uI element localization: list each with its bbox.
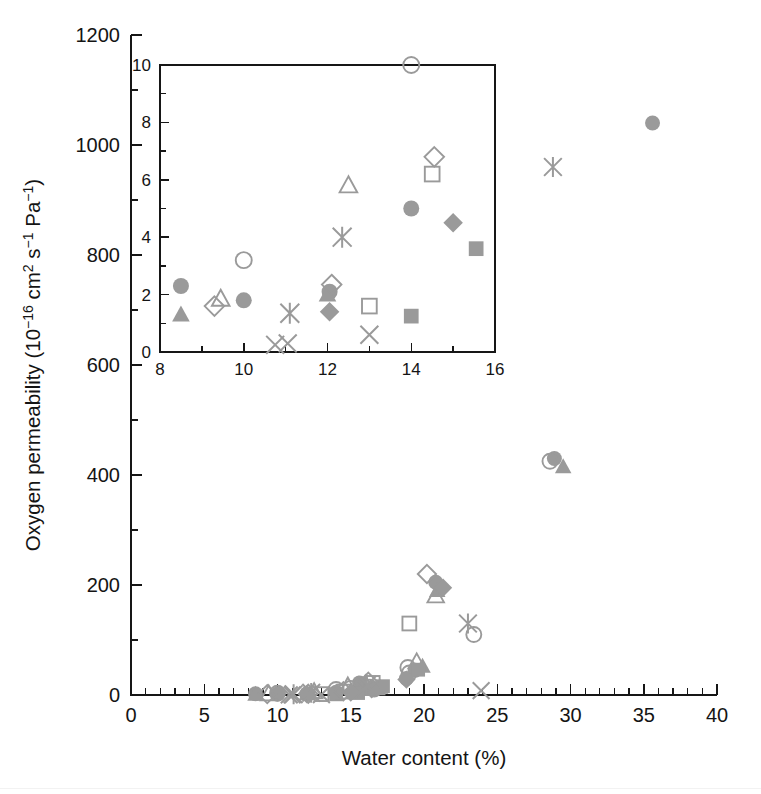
y-tick-label: 4 (142, 228, 151, 247)
y-axis-title: Oxygen permeability (10−16 cm2 s−1 Pa−1) (20, 179, 44, 551)
x-tick-label: 12 (318, 360, 337, 379)
x-tick-label: 8 (155, 360, 164, 379)
x-tick-label: 5 (199, 704, 210, 726)
x-tick-label: 0 (125, 704, 136, 726)
y-tick-label: 8 (142, 113, 151, 132)
data-point-open-square (362, 299, 377, 314)
data-point-asterisk (544, 157, 562, 177)
data-point-asterisk (459, 614, 477, 634)
data-point-filled-circle (645, 116, 660, 131)
data-point-cross-x (473, 682, 490, 699)
data-point-filled-circle (403, 201, 419, 217)
x-axis-title: Water content (%) (342, 746, 506, 769)
data-point-open-square (425, 167, 440, 182)
data-point-filled-circle (173, 278, 189, 294)
y-tick-label: 0 (109, 684, 120, 706)
y-tick-label: 0 (142, 343, 151, 362)
data-point-open-square (402, 617, 416, 631)
y-tick-label: 6 (142, 171, 151, 190)
y-tick-label: 800 (87, 244, 120, 266)
y-tick-label: 1200 (76, 24, 121, 46)
y-tick-label: 2 (142, 286, 151, 305)
x-tick-label: 40 (706, 704, 728, 726)
y-tick-label: 1000 (76, 134, 121, 156)
data-point-filled-square (411, 663, 425, 677)
x-tick-label: 16 (486, 360, 505, 379)
data-point-filled-circle (236, 292, 252, 308)
y-tick-label: 400 (87, 464, 120, 486)
scatter-plot-figure: 0510152025303540020040060080010001200 81… (0, 0, 761, 794)
data-point-open-circle (236, 252, 252, 268)
x-tick-label: 10 (266, 704, 288, 726)
x-tick-label: 35 (633, 704, 655, 726)
data-point-filled-square (469, 241, 484, 256)
x-tick-label: 10 (234, 360, 253, 379)
y-tick-label: 200 (87, 574, 120, 596)
data-point-open-circle (542, 454, 557, 469)
y-tick-label: 10 (132, 56, 151, 75)
x-tick-label: 14 (402, 360, 421, 379)
y-tick-label: 600 (87, 354, 120, 376)
data-point-open-circle (403, 57, 419, 73)
svg-text:Oxygen permeability (10−16 cm2: Oxygen permeability (10−16 cm2 s−1 Pa−1) (20, 179, 44, 551)
x-tick-label: 30 (559, 704, 581, 726)
scan-edge-artifact (0, 788, 761, 789)
x-tick-label: 25 (486, 704, 508, 726)
figure-root: 0510152025303540020040060080010001200 81… (0, 0, 761, 794)
x-tick-label: 15 (340, 704, 362, 726)
data-point-filled-square (404, 309, 419, 324)
x-tick-label: 20 (413, 704, 435, 726)
